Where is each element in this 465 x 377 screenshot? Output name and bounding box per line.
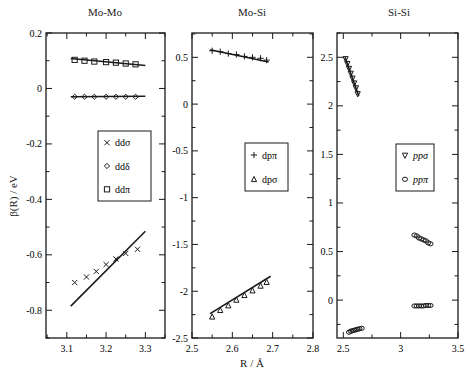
x-tick-label: 3.2 (100, 343, 113, 354)
y-tick-label: -2.5 (172, 333, 188, 344)
panel-title-si-si: Si-Si (369, 6, 429, 18)
x-tick-label: 3.3 (139, 343, 152, 354)
y-tick-label: -0.4 (26, 194, 42, 205)
x-tick-label: 2.6 (226, 343, 239, 354)
fit-line (71, 231, 146, 306)
series-ppπ (346, 326, 364, 334)
legend-label: ddσ (115, 137, 131, 148)
plus-marker (209, 48, 215, 54)
series-ddδ (71, 94, 146, 99)
plus-marker (264, 57, 270, 63)
y-tick-label: 0.5 (176, 52, 189, 63)
y-tick-label: 0 (328, 295, 333, 306)
series-ddσ (71, 231, 146, 306)
series-dpπ (209, 48, 270, 64)
legend-label: ppπ (412, 174, 429, 185)
x-tick-label: 2.5 (337, 343, 350, 354)
y-tick-label: 0.5 (321, 246, 334, 257)
panel-mo-si: 0.50-0.5-1-1.5-2-2.52.52.62.72.8dpπdpσ (172, 33, 319, 354)
cross-marker (135, 247, 140, 252)
cross-marker (103, 262, 108, 267)
cross-marker (84, 274, 89, 279)
plus-marker (241, 53, 247, 59)
cross-marker (72, 280, 77, 285)
x-tick-label: 3.1 (61, 343, 74, 354)
y-tick-label: 0.2 (30, 28, 43, 39)
x-axis-label: R / Å (222, 357, 282, 369)
legend-label: ppσ (412, 150, 429, 161)
legend-label: ddπ (115, 184, 130, 195)
panel-title-mo-mo: Mo-Mo (75, 6, 135, 18)
series-dpσ (210, 276, 271, 319)
legend-label: dpσ (262, 174, 278, 185)
panel-si-si: 2.521.510.502.533.5ppσppπ (321, 33, 465, 354)
cross-marker (94, 269, 99, 274)
figure: 0.20-0.2-0.4-0.6-0.83.13.23.3ddσddδddπ0.… (0, 0, 465, 377)
fit-line (210, 276, 271, 313)
legend: ppσppπ (396, 144, 434, 191)
legend-label: ddδ (115, 161, 130, 172)
y-tick-label: 2.5 (321, 52, 334, 63)
y-tick-label: 1 (328, 197, 333, 208)
triangle-up-marker (210, 314, 215, 319)
y-tick-label: -1.5 (172, 239, 188, 250)
y-tick-label: -1 (180, 192, 188, 203)
series-ppσ (412, 233, 433, 246)
panel-title-mo-si: Mo-Si (222, 6, 282, 18)
x-tick-label: 3 (398, 343, 403, 354)
y-tick-label: -0.6 (26, 249, 42, 260)
plus-marker (217, 49, 223, 55)
legend-label: dpπ (262, 150, 277, 161)
legend: ddσddδddπ (98, 131, 151, 201)
y-tick-label: -2 (180, 286, 188, 297)
y-tick-label: 2 (328, 100, 333, 111)
series-ppσ (343, 57, 360, 97)
y-tick-label: -0.2 (26, 138, 42, 149)
series-ddπ (71, 57, 146, 67)
panel-mo-mo: 0.20-0.2-0.4-0.6-0.83.13.23.3ddσddδddπ (26, 28, 165, 355)
y-tick-label: -0.8 (26, 305, 42, 316)
y-axis-label: β(R) / eV (7, 161, 19, 231)
y-tick-label: 0 (183, 99, 188, 110)
x-tick-label: 2.5 (186, 343, 199, 354)
y-tick-label: -0.5 (172, 145, 188, 156)
x-tick-label: 2.7 (266, 343, 279, 354)
y-tick-label: 0 (37, 83, 42, 94)
x-tick-label: 3.5 (452, 343, 465, 354)
series-ppπ (412, 303, 433, 308)
legend: dpπdpσ (245, 143, 288, 191)
plus-marker (233, 51, 239, 57)
y-tick-label: 1.5 (321, 149, 334, 160)
x-tick-label: 2.8 (307, 343, 320, 354)
plus-marker (225, 50, 231, 56)
